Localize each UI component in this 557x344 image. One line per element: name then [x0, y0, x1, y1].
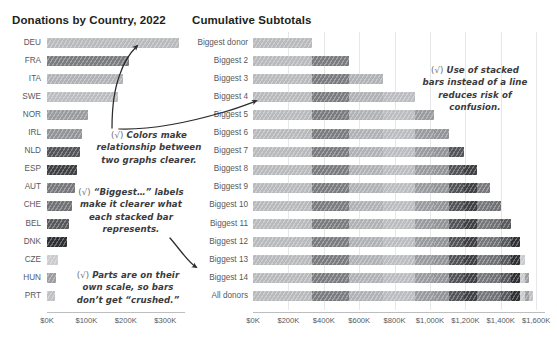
stack-segment-nor[interactable]: [415, 291, 434, 301]
stack-segment-bel[interactable]: [501, 237, 511, 247]
stack-segment-swe[interactable]: [383, 255, 415, 265]
stack-segment-fra[interactable]: [312, 165, 349, 175]
stack-segment-che[interactable]: [490, 291, 501, 301]
stack-segment-nor[interactable]: [415, 237, 434, 247]
left-bar-dnk[interactable]: [47, 237, 67, 247]
right-stacked-bar-10[interactable]: [253, 219, 511, 229]
stack-segment-fra[interactable]: [312, 147, 349, 157]
stack-segment-ita[interactable]: [349, 74, 383, 84]
stack-segment-aut[interactable]: [477, 291, 489, 301]
stack-segment-aut[interactable]: [477, 201, 489, 211]
stack-segment-esp[interactable]: [464, 165, 477, 175]
stack-segment-che[interactable]: [490, 219, 501, 229]
right-stacked-bar-8[interactable]: [253, 183, 490, 193]
stack-segment-deu[interactable]: [253, 273, 312, 283]
stack-segment-nld[interactable]: [449, 219, 464, 229]
stack-segment-esp[interactable]: [464, 201, 477, 211]
stack-segment-deu[interactable]: [253, 110, 312, 120]
stack-segment-ita[interactable]: [349, 92, 383, 102]
left-bar-swe[interactable]: [47, 92, 118, 102]
stack-segment-esp[interactable]: [464, 219, 477, 229]
stack-segment-esp[interactable]: [464, 273, 477, 283]
stack-segment-nor[interactable]: [415, 147, 434, 157]
stack-segment-nor[interactable]: [415, 183, 434, 193]
right-stacked-bar-1[interactable]: [253, 56, 349, 66]
stack-segment-dnk[interactable]: [511, 237, 520, 247]
stack-segment-irl[interactable]: [434, 219, 450, 229]
stack-segment-nld[interactable]: [449, 291, 464, 301]
stack-segment-swe[interactable]: [383, 147, 415, 157]
stack-segment-irl[interactable]: [434, 183, 450, 193]
left-bar-ita[interactable]: [47, 74, 123, 84]
stack-segment-irl[interactable]: [434, 129, 450, 139]
stack-segment-dnk[interactable]: [511, 255, 520, 265]
stack-segment-nld[interactable]: [449, 273, 464, 283]
stack-segment-nor[interactable]: [415, 165, 434, 175]
left-bar-cze[interactable]: [47, 255, 58, 265]
stack-segment-bel[interactable]: [501, 255, 511, 265]
left-bar-esp[interactable]: [47, 165, 77, 175]
stack-segment-ita[interactable]: [349, 110, 383, 120]
stack-segment-nor[interactable]: [415, 201, 434, 211]
stack-segment-fra[interactable]: [312, 183, 349, 193]
stack-segment-fra[interactable]: [312, 291, 349, 301]
stack-segment-deu[interactable]: [253, 219, 312, 229]
stack-segment-nld[interactable]: [449, 255, 464, 265]
stack-segment-fra[interactable]: [312, 219, 349, 229]
stack-segment-deu[interactable]: [253, 129, 312, 139]
right-stacked-bar-5[interactable]: [253, 129, 449, 139]
stack-segment-che[interactable]: [490, 201, 501, 211]
stack-segment-aut[interactable]: [477, 255, 489, 265]
stack-segment-swe[interactable]: [383, 165, 415, 175]
stack-segment-swe[interactable]: [383, 273, 415, 283]
stack-segment-che[interactable]: [490, 255, 501, 265]
stack-segment-fra[interactable]: [312, 237, 349, 247]
right-stacked-bar-9[interactable]: [253, 201, 501, 211]
stack-segment-deu[interactable]: [253, 56, 312, 66]
stack-segment-nor[interactable]: [415, 219, 434, 229]
stack-segment-irl[interactable]: [434, 255, 450, 265]
stack-segment-irl[interactable]: [434, 273, 450, 283]
stack-segment-ita[interactable]: [349, 183, 383, 193]
stack-segment-fra[interactable]: [312, 92, 349, 102]
stack-segment-ita[interactable]: [349, 201, 383, 211]
right-stacked-bar-11[interactable]: [253, 237, 520, 247]
stack-segment-fra[interactable]: [312, 56, 349, 66]
right-stacked-bar-3[interactable]: [253, 92, 415, 102]
stack-segment-irl[interactable]: [434, 147, 450, 157]
stack-segment-fra[interactable]: [312, 129, 349, 139]
stack-segment-aut[interactable]: [477, 273, 489, 283]
stack-segment-ita[interactable]: [349, 237, 383, 247]
stack-segment-che[interactable]: [490, 237, 501, 247]
left-bar-fra[interactable]: [47, 56, 129, 66]
stack-segment-esp[interactable]: [464, 291, 477, 301]
stack-segment-fra[interactable]: [312, 110, 349, 120]
stack-segment-deu[interactable]: [253, 201, 312, 211]
stack-segment-fra[interactable]: [312, 74, 349, 84]
stack-segment-fra[interactable]: [312, 255, 349, 265]
stack-segment-bel[interactable]: [501, 219, 511, 229]
left-bar-irl[interactable]: [47, 129, 82, 139]
stack-segment-deu[interactable]: [253, 38, 312, 48]
stack-segment-esp[interactable]: [464, 183, 477, 193]
stack-segment-deu[interactable]: [253, 183, 312, 193]
stack-segment-nld[interactable]: [449, 165, 464, 175]
stack-segment-nld[interactable]: [449, 201, 464, 211]
stack-segment-swe[interactable]: [383, 183, 415, 193]
stack-segment-cze[interactable]: [520, 255, 525, 265]
stack-segment-deu[interactable]: [253, 255, 312, 265]
stack-segment-ita[interactable]: [349, 219, 383, 229]
stack-segment-irl[interactable]: [434, 165, 450, 175]
left-bar-nld[interactable]: [47, 147, 80, 157]
stack-segment-ita[interactable]: [349, 273, 383, 283]
stack-segment-ita[interactable]: [349, 291, 383, 301]
right-stacked-bar-0[interactable]: [253, 38, 312, 48]
left-bar-deu[interactable]: [47, 38, 179, 48]
stack-segment-esp[interactable]: [464, 255, 477, 265]
stack-segment-deu[interactable]: [253, 74, 312, 84]
stack-segment-ita[interactable]: [349, 129, 383, 139]
stack-segment-irl[interactable]: [434, 201, 450, 211]
stack-segment-aut[interactable]: [477, 219, 489, 229]
stack-segment-deu[interactable]: [253, 92, 312, 102]
stack-segment-nor[interactable]: [415, 255, 434, 265]
